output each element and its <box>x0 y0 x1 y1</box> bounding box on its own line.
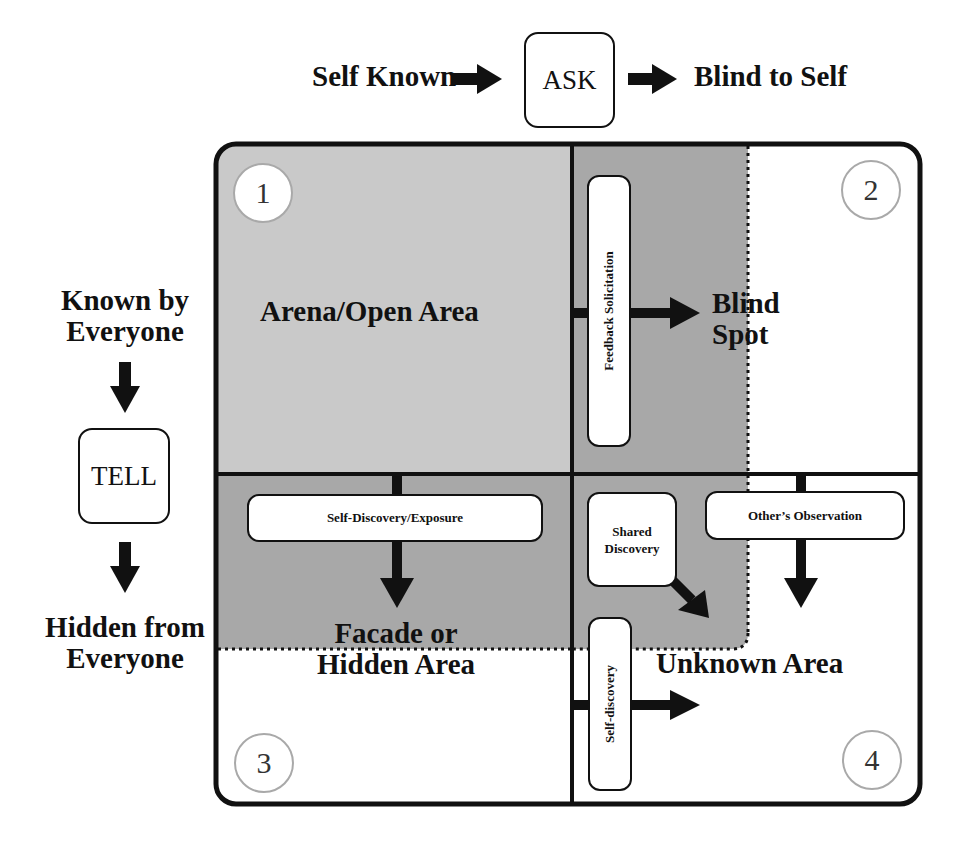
arrow-down-icon <box>110 362 140 413</box>
johari-grid-graphics <box>0 0 961 850</box>
arrow-right-icon <box>453 64 502 94</box>
shared-discovery-box: Shared Discovery <box>587 492 677 587</box>
tell-box: TELL <box>78 428 170 524</box>
quadrant-1-badge: 1 <box>233 163 293 223</box>
others-observation-pill: Other’s Observation <box>705 491 905 540</box>
self-discovery-exposure-pill: Self-Discovery/Exposure <box>247 494 543 542</box>
quadrant-4-badge: 4 <box>842 730 902 790</box>
ask-label: ASK <box>542 65 596 96</box>
blind-to-self-label: Blind to Self <box>694 60 847 93</box>
ask-box: ASK <box>524 32 615 128</box>
hidden-from-everyone-label: Hidden from Everyone <box>15 612 235 674</box>
self-known-label: Self Known <box>312 60 456 93</box>
quadrant-3-badge: 3 <box>234 733 294 793</box>
facade-hidden-area-label: Facade or Hidden Area <box>296 618 496 680</box>
arena-open-area-label: Arena/Open Area <box>260 296 479 327</box>
blind-spot-label: Blind Spot <box>712 288 780 350</box>
quadrant-2-badge: 2 <box>841 160 901 220</box>
self-discovery-pill: Self-discovery <box>588 617 632 791</box>
known-by-everyone-label: Known by Everyone <box>30 285 220 347</box>
arrow-down-icon <box>110 542 140 593</box>
unknown-area-label: Unknown Area <box>656 648 843 679</box>
arrow-right-icon <box>628 64 677 94</box>
feedback-solicitation-pill: Feedback Solicitation <box>587 175 631 447</box>
tell-label: TELL <box>91 461 157 492</box>
